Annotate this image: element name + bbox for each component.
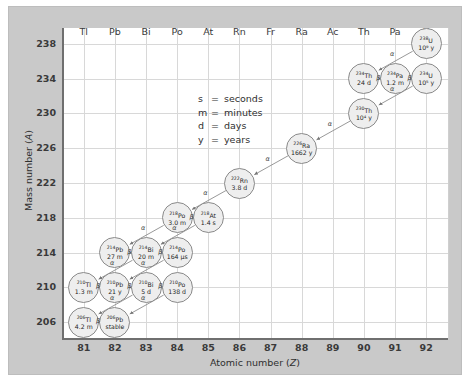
decay-mode-label-beta: β [376,74,380,82]
nuclide-halflife-label: stable [105,323,124,331]
nuclide-halflife-label: 1.4 s [201,219,216,227]
nuclide-halflife-label: 138 d [168,288,186,296]
nuclide-element-symbol: U [428,37,433,44]
nuclide-isotope-label: 206Pb [107,314,123,323]
nuclide-isotope-label: 210Bi [139,279,154,288]
decay-mode-label-beta: β [96,282,100,290]
nuclide-node-ra226[interactable]: 226Ra1662 y [286,133,317,164]
nuclide-halflife-label: 1.3 m [75,288,93,296]
nuclide-isotope-label: 210Tl [77,279,91,288]
decay-mode-label-beta: β [158,248,162,256]
nuclide-isotope-label: 214Pb [107,244,123,253]
nuclide-node-u238[interactable]: 238U10⁹ y [411,28,442,59]
nuclide-halflife-label: 10⁴ y [356,114,372,122]
nuclide-isotope-label: 234Th [356,70,372,79]
nuclide-node-bi210[interactable]: 210Bi5 d [131,272,162,303]
nuclide-isotope-label: 214Bi [139,244,154,253]
decay-arrow-ra226-to-rn222 [254,156,288,175]
decay-mode-label-alpha: α [172,224,176,232]
decay-mode-label-alpha: α [141,294,145,302]
nuclide-mass-superscript: 222 [231,176,240,181]
nuclide-isotope-label: 222Rn [231,175,248,184]
nuclide-isotope-label: 218At [201,210,216,219]
nuclide-halflife-label: 24 d [357,79,371,87]
nuclide-node-po218[interactable]: 218Po3.0 m [162,202,193,233]
decay-mode-label-beta: β [158,282,162,290]
decay-mode-label-alpha: α [266,155,270,163]
nuclide-element-symbol: Rn [240,177,248,184]
nuclide-mass-superscript: 214 [169,245,178,250]
nuclide-mass-superscript: 234 [420,71,429,76]
nuclide-mass-superscript: 234 [387,71,396,76]
nuclide-isotope-label: 218Po [169,210,185,219]
nuclide-halflife-label: 4.2 m [75,323,93,331]
nuclide-element-symbol: At [209,212,216,219]
decay-mode-label-alpha: α [390,50,394,58]
nuclide-element-symbol: Tl [85,316,91,323]
nuclide-node-pb206[interactable]: 206Pbstable [99,307,130,338]
nuclide-halflife-label: 1.2 m [386,79,404,87]
nuclide-halflife-label: 10⁵ y [418,79,434,87]
nuclide-element-symbol: Po [178,281,185,288]
nuclide-node-po210[interactable]: 210Po138 d [162,272,193,303]
decay-mode-label-alpha: α [110,294,114,302]
nuclide-halflife-label: 10⁹ y [418,44,434,52]
nuclide-element-symbol: Bi [147,246,153,253]
nuclide-isotope-label: 234U [420,70,433,79]
decay-mode-label-alpha: α [141,224,145,232]
nuclide-halflife-label: 3.8 d [232,184,248,192]
decay-mode-label-alpha: α [328,120,332,128]
nuclide-halflife-label: 164 µs [167,253,188,261]
nuclide-node-bi214[interactable]: 214Bi20 m [131,237,162,268]
nuclide-mass-superscript: 218 [169,211,178,216]
nuclide-element-symbol: Th [364,107,372,114]
decay-series-figure: TlPbBiPoAtRnFrRaAcThPaU 8182838485868788… [0,0,474,391]
decay-mode-label-beta: β [407,74,411,82]
nuclide-node-rn222[interactable]: 222Rn3.8 d [224,168,255,199]
nuclide-isotope-label: 210Po [169,279,185,288]
decay-mode-label-alpha: α [203,189,207,197]
nuclide-isotope-label: 234Pa [387,70,403,79]
nuclide-node-pa234[interactable]: 234Pa1.2 m [380,63,411,94]
nuclide-isotope-label: 226Ra [293,140,310,149]
nuclide-element-symbol: Pa [396,72,403,79]
nuclide-element-symbol: Pb [115,281,123,288]
nuclide-mass-superscript: 210 [169,280,178,285]
nuclide-halflife-label: 1662 y [291,149,312,157]
nuclide-node-tl206[interactable]: 206Tl4.2 m [68,307,99,338]
nuclide-node-at218[interactable]: 218At1.4 s [193,202,224,233]
nuclide-element-symbol: Po [178,212,185,219]
decay-mode-label-alpha: α [141,259,145,267]
nuclide-element-symbol: Bi [147,281,153,288]
decay-mode-label-beta: β [127,282,131,290]
nuclide-isotope-label: 230Th [356,105,372,114]
nuclide-isotope-label: 206Tl [77,314,91,323]
nuclide-isotope-label: 210Pb [107,279,123,288]
nuclide-mass-superscript: 238 [420,36,429,41]
nuclide-element-symbol: Tl [85,281,91,288]
nuclide-isotope-label: 238U [420,35,433,44]
decay-mode-label-beta: β [127,248,131,256]
decay-arrow-th230-to-ra226 [317,121,351,140]
nuclide-element-symbol: Th [364,72,372,79]
nuclide-element-symbol: Ra [302,142,310,149]
nuclide-element-symbol: Pb [115,246,123,253]
decay-mode-label-beta: β [96,317,100,325]
nuclide-element-symbol: Pb [115,316,123,323]
nuclide-isotope-label: 214Po [169,244,185,253]
nuclide-element-symbol: U [428,72,433,79]
nuclide-node-po214[interactable]: 214Po164 µs [162,237,193,268]
nuclide-mass-superscript: 226 [293,141,302,146]
nuclide-element-symbol: Po [178,246,185,253]
decay-mode-label-alpha: α [390,85,394,93]
nuclide-node-u234[interactable]: 234U10⁵ y [411,63,442,94]
decay-mode-label-beta: β [189,213,193,221]
decay-mode-label-alpha: α [110,259,114,267]
nuclide-halflife-label: 3.0 m [168,219,186,227]
